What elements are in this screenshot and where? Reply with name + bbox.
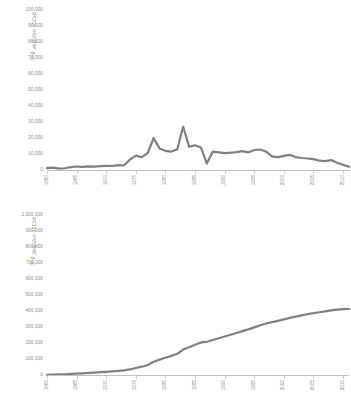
x-axis-tick-mark [195, 171, 196, 174]
x-axis-annual: 1960196519701975198019851990199520002005… [47, 171, 349, 197]
x-axis-tick-label: 1995 [252, 175, 257, 185]
x-axis-tick-label: 1975 [133, 175, 138, 185]
x-axis-tick-label: 1960 [45, 175, 50, 185]
y-axis-tick-label: 0 [40, 373, 43, 378]
x-axis-tick-label: 1980 [163, 175, 168, 185]
x-axis-tick-mark [195, 376, 196, 379]
x-axis-tick-label: 2010 [341, 175, 346, 185]
x-axis-tick-mark [136, 376, 137, 379]
x-axis-tick-mark [106, 171, 107, 174]
x-axis-tick-mark [165, 376, 166, 379]
plot-wrapper-annual: 100,00090,00080,00070,00060,00050,00040,… [0, 0, 351, 200]
x-axis-tick-mark [313, 171, 314, 174]
x-axis-tick-mark [313, 376, 314, 379]
y-axis-tick-label: 500,000 [26, 293, 43, 298]
chart-cumulative-afforestation: 1,000,000900,000800,000700,000600,000500… [0, 205, 351, 410]
x-axis-tick-mark [254, 171, 255, 174]
x-axis-tick-mark [77, 376, 78, 379]
figure-container: 100,00090,00080,00070,00060,00050,00040,… [0, 0, 351, 415]
x-axis-tick-mark [136, 171, 137, 174]
x-axis-tick-mark [77, 171, 78, 174]
line-series-annual [47, 10, 349, 170]
x-axis-tick-label: 1985 [193, 175, 198, 185]
x-axis-tick-mark [343, 376, 344, 379]
x-axis-tick-mark [225, 171, 226, 174]
y-axis-tick-label: 0 [40, 168, 43, 173]
x-axis-tick-label: 1975 [133, 380, 138, 390]
x-axis-tick-label: 1965 [74, 175, 79, 185]
y-axis-tick-label: 40,000 [28, 104, 43, 109]
x-axis-tick-mark [284, 376, 285, 379]
x-axis-tick-mark [47, 171, 48, 174]
x-axis-tick-mark [47, 376, 48, 379]
x-axis-tick-label: 1990 [222, 175, 227, 185]
x-axis-tick-label: 2005 [311, 380, 316, 390]
x-axis-tick-label: 1995 [252, 380, 257, 390]
y-axis-tick-label: 20,000 [28, 136, 43, 141]
x-axis-tick-label: 1970 [104, 380, 109, 390]
x-axis-tick-mark [343, 171, 344, 174]
y-axis-title-cumulative: 잣나무 조림면적 (ha) [30, 217, 35, 266]
x-axis-tick-label: 2005 [311, 175, 316, 185]
y-axis-tick-label: 200,000 [26, 341, 43, 346]
x-axis-tick-mark [165, 171, 166, 174]
y-axis-tick-label: 400,000 [26, 309, 43, 314]
y-axis-tick-label: 30,000 [28, 120, 43, 125]
plot-area-annual [47, 10, 349, 170]
plot-wrapper-cumulative: 1,000,000900,000800,000700,000600,000500… [0, 205, 351, 410]
y-axis-tick-label: 600,000 [26, 277, 43, 282]
x-axis-tick-label: 1965 [74, 380, 79, 390]
x-axis-tick-mark [225, 376, 226, 379]
line-series-cumulative [47, 215, 349, 375]
x-axis-tick-label: 1960 [45, 380, 50, 390]
y-axis-title-annual: 잣나무 조림면적 (ha) [30, 12, 35, 61]
x-axis-tick-label: 1970 [104, 175, 109, 185]
y-axis-tick-label: 300,000 [26, 325, 43, 330]
x-axis-tick-mark [254, 376, 255, 379]
x-axis-cumulative: 1960196519701975198019851990199520002005… [47, 376, 349, 402]
x-axis-tick-mark [106, 376, 107, 379]
x-axis-tick-label: 1980 [163, 380, 168, 390]
x-axis-tick-label: 1985 [193, 380, 198, 390]
x-axis-tick-label: 2000 [281, 380, 286, 390]
x-axis-tick-label: 2010 [341, 380, 346, 390]
x-axis-tick-label: 1990 [222, 380, 227, 390]
y-axis-tick-label: 100,000 [26, 357, 43, 362]
y-axis-tick-label: 60,000 [28, 72, 43, 77]
y-axis-tick-label: 50,000 [28, 88, 43, 93]
x-axis-tick-mark [284, 171, 285, 174]
chart-annual-afforestation: 100,00090,00080,00070,00060,00050,00040,… [0, 0, 351, 200]
y-axis-tick-label: 10,000 [28, 152, 43, 157]
plot-area-cumulative [47, 215, 349, 375]
x-axis-tick-label: 2000 [281, 175, 286, 185]
